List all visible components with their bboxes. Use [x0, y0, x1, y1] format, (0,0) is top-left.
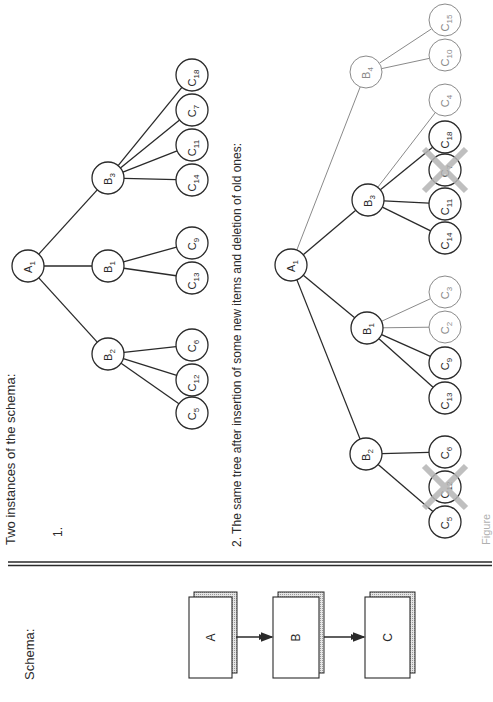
node-c2: C2	[429, 311, 461, 343]
edge-b4-c10	[382, 58, 430, 68]
node-c5: C5	[176, 397, 208, 429]
edge-b2-c5	[121, 363, 179, 404]
node-c7-deleted: C7	[424, 149, 466, 191]
edge-b2-c6	[382, 452, 429, 453]
schema-heading: Schema:	[22, 629, 37, 680]
node-c18: C18	[176, 59, 208, 91]
edge-b1-c9	[382, 335, 431, 357]
edge-b3-c14	[124, 178, 176, 179]
node-a1: A1	[12, 250, 44, 282]
node-b3: B3	[92, 162, 124, 194]
schema-box-c: C	[365, 592, 415, 678]
node-c9: C9	[176, 227, 208, 259]
edge-a1-b3	[39, 190, 97, 254]
schema-arrow-a-b	[236, 634, 272, 640]
edge-b2-c6	[124, 347, 176, 353]
node-c15: C15	[429, 4, 461, 36]
node-c3: C3	[429, 276, 461, 308]
node-c11: C11	[176, 129, 208, 161]
node-b4: B4	[350, 56, 382, 88]
edge-a1-b3	[303, 210, 356, 254]
edge-b3-c11	[123, 151, 177, 172]
node-c14: C14	[429, 222, 461, 254]
figure-caption: Figure	[480, 514, 492, 545]
node-b1: B1	[92, 250, 124, 282]
node-b2: B2	[92, 338, 124, 370]
node-c4: C4	[429, 84, 461, 116]
node-c11: C11	[429, 188, 461, 220]
node-c6: C6	[176, 329, 208, 361]
edge-b3-c14	[382, 207, 430, 231]
schema-box-label: B	[289, 633, 303, 641]
node-c5: C5	[429, 506, 461, 538]
schema-diagram: ABC	[189, 592, 415, 678]
edge-a1-b2	[39, 278, 97, 342]
schema-box-label: A	[204, 633, 218, 641]
node-c6: C6	[429, 436, 461, 468]
schema-box-a: A	[189, 592, 237, 678]
node-b2: B2	[350, 438, 382, 470]
tree-instance-1: A1B3B1B2C18C7C11C14C9C13C6C12C5	[12, 59, 208, 429]
edge-a1-b4	[297, 87, 360, 250]
edge-b1-c2	[383, 327, 429, 328]
schema-arrow-b-c	[324, 634, 364, 640]
node-c18: C18	[429, 121, 461, 153]
schema-box-b: B	[273, 592, 324, 678]
instances-heading: Two instances of the schema:	[3, 374, 18, 545]
edge-b3-c11	[384, 201, 429, 203]
instance-2-label: 2. The same tree after insertion of some…	[230, 143, 244, 547]
node-b1: B1	[351, 312, 383, 344]
edge-b2-c12	[123, 359, 176, 376]
schema-figure: Schema: Two instances of the schema: 1. …	[0, 0, 493, 702]
node-c10: C10	[429, 39, 461, 71]
node-c13: C13	[429, 382, 461, 414]
node-a1: A1	[275, 249, 307, 281]
instance-1-label: 1.	[51, 527, 65, 537]
edge-b1-c9	[123, 247, 176, 262]
edge-b1-c3	[382, 299, 431, 322]
node-c14: C14	[176, 164, 208, 196]
schema-box-label: C	[381, 633, 395, 642]
tree-instance-2: A1B4B3B1B2C15C10C4C18C7C11C14C3C2C9C13C6…	[275, 4, 466, 538]
node-c9: C9	[429, 347, 461, 379]
edge-a1-b2	[297, 280, 360, 439]
edge-b4-c15	[379, 29, 431, 63]
edge-a1-b1	[303, 275, 354, 318]
section-divider	[8, 562, 492, 566]
node-c7: C7	[176, 94, 208, 126]
node-c12: C12	[176, 364, 208, 396]
node-b3: B3	[352, 184, 384, 216]
node-c12-deleted: C12	[424, 466, 466, 508]
edge-b1-c13	[124, 268, 176, 275]
node-c13: C13	[176, 262, 208, 294]
